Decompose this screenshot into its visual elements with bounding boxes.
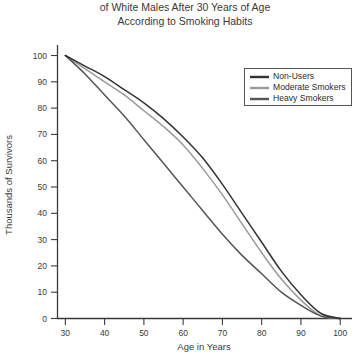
chart-title-line-2: According to Smoking Habits [118,15,253,27]
x-tick-label: 90 [296,328,306,338]
x-axis-title: Age in Years [177,341,231,352]
chart-title: of White Males After 30 Years of Age Acc… [100,1,271,27]
y-tick-label: 90 [38,77,48,87]
x-tick-label: 30 [61,328,71,338]
y-tick-label: 40 [38,208,48,218]
legend-label-heavy-smokers: Heavy Smokers [273,93,334,103]
x-tick-label: 70 [218,328,228,338]
chart-figure: of White Males After 30 Years of Age Acc… [0,0,360,362]
y-tick-label: 30 [38,235,48,245]
y-tick-label: 60 [38,156,48,166]
x-tick-label: 40 [100,328,110,338]
y-tick-label: 20 [38,261,48,271]
y-tick-label: 70 [38,129,48,139]
y-tick-label: 100 [33,51,47,61]
legend-label-moderate-smokers: Moderate Smokers [273,82,346,92]
chart-legend: Non-UsersModerate SmokersHeavy Smokers [245,69,352,106]
survivorship-line-chart: of White Males After 30 Years of Age Acc… [0,0,360,362]
y-axis-title: Thousands of Survivors [3,135,14,235]
x-tick-label: 50 [139,328,149,338]
y-tick-label: 80 [38,103,48,113]
legend-label-non-users: Non-Users [273,71,314,81]
y-tick-label: 10 [38,287,48,297]
x-tick-label: 60 [178,328,188,338]
x-axis-ticks: 30405060708090100 [61,319,348,339]
y-tick-label: 0 [42,314,47,324]
y-axis-ticks: 0102030405060708090100 [33,51,58,324]
y-tick-label: 50 [38,182,48,192]
x-tick-label: 80 [257,328,267,338]
chart-title-line-1: of White Males After 30 Years of Age [100,1,271,13]
x-tick-label: 100 [333,328,347,338]
